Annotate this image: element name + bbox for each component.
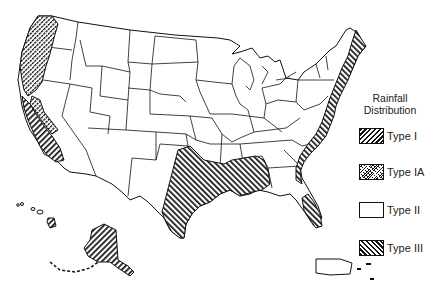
swatch-type1a-icon [359,164,384,180]
legend-label: Type II [387,204,420,216]
great-lakes [240,58,296,90]
legend-label: Type IA [387,166,424,178]
hawaii-islands [17,203,56,229]
legend-item-type1a: Type IA [359,164,424,180]
region-type3-florida [302,194,322,228]
region-type1-alaska [84,224,134,276]
region-type3-atlantic [296,30,366,184]
legend-label: Type III [387,242,423,254]
swatch-type1-icon [359,128,384,144]
region-type1a-pacific-northwest [20,16,58,96]
legend-title-line1: Rainfall [357,92,423,104]
puerto-rico [316,259,352,275]
region-type3-gulf-coast [162,146,270,238]
legend-title-line2: Distribution [357,104,423,116]
alaska-aleutians [50,262,98,272]
swatch-type2-icon [359,202,384,218]
legend: Rainfall Distribution Type I Type IA Typ… [357,92,432,116]
legend-label: Type I [387,130,417,142]
legend-item-type2: Type II [359,202,420,218]
virgin-islands [357,263,374,280]
swatch-type3-icon [359,240,384,256]
legend-item-type1: Type I [359,128,417,144]
legend-item-type3: Type III [359,240,423,256]
